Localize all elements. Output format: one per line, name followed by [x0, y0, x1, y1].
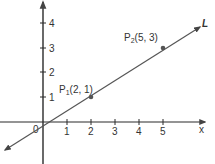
x-tick-label: 5: [160, 126, 166, 137]
x-tick-label: 4: [136, 126, 142, 137]
point-p1: [89, 95, 94, 100]
y-tick-label: 3: [49, 43, 55, 54]
line-L: [5, 27, 200, 150]
x-tick-label: 3: [112, 126, 118, 137]
x-axis-label: x: [199, 124, 204, 135]
y-tick-label: 2: [49, 67, 55, 78]
y-tick-label: 4: [49, 18, 55, 29]
y-tick-label: 1: [49, 92, 55, 103]
x-tick-label: 1: [64, 126, 70, 137]
point-p2: [161, 46, 166, 51]
point-p1-label: P1(2, 1): [59, 84, 93, 96]
coordinate-plot: 1 2 3 4 5 1 2 3 4 0 x L P1(2, 1) P2(5, 3…: [0, 0, 215, 164]
point-p2-label: P2(5, 3): [124, 32, 158, 44]
line-label: L: [202, 18, 208, 29]
x-tick-label: 2: [88, 126, 94, 137]
